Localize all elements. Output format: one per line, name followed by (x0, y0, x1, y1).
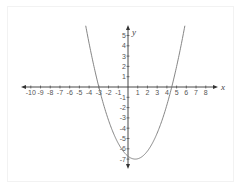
x-tick-label: 7 (194, 89, 198, 96)
y-tick-label: -3 (120, 114, 126, 121)
y-tick-label: -2 (120, 104, 126, 111)
x-tick-label: 3 (155, 89, 159, 96)
tick-labels: -10-9-8-7-6-5-4-3-2-11234567854321-1-2-3… (26, 32, 208, 163)
x-tick-label: -5 (76, 89, 82, 96)
x-tick-label: 5 (175, 89, 179, 96)
y-tick-label: 1 (122, 73, 126, 80)
x-tick-label: 2 (145, 89, 149, 96)
x-axis-left-arrow-icon (21, 85, 26, 89)
x-tick-label: -2 (105, 89, 111, 96)
x-tick-label: 6 (184, 89, 188, 96)
x-tick-label: -8 (47, 89, 53, 96)
y-tick-label: 5 (122, 32, 126, 39)
y-tick-label: 2 (122, 63, 126, 70)
x-tick-label: -9 (37, 89, 43, 96)
x-tick-label: 4 (165, 89, 169, 96)
parabola-chart: -10-9-8-7-6-5-4-3-2-11234567854321-1-2-3… (0, 0, 241, 189)
y-axis-top-arrow-icon (126, 25, 130, 30)
y-tick-label: 4 (122, 42, 126, 49)
y-tick-label: 3 (122, 53, 126, 60)
y-tick-label: -1 (120, 94, 126, 101)
x-tick-label: -4 (86, 89, 92, 96)
x-tick-label: 8 (204, 89, 208, 96)
y-axis-label: y (131, 27, 136, 37)
x-tick-label: -10 (26, 89, 36, 96)
y-tick-label: -7 (120, 156, 126, 163)
x-axis-right-arrow-icon (213, 85, 218, 89)
x-tick-label: 1 (136, 89, 140, 96)
x-axis-label: x (220, 82, 225, 92)
y-tick-label: -5 (120, 135, 126, 142)
y-tick-label: -4 (120, 125, 126, 132)
x-tick-label: -6 (67, 89, 73, 96)
y-axis-bottom-arrow-icon (126, 164, 130, 169)
x-tick-label: -7 (57, 89, 63, 96)
